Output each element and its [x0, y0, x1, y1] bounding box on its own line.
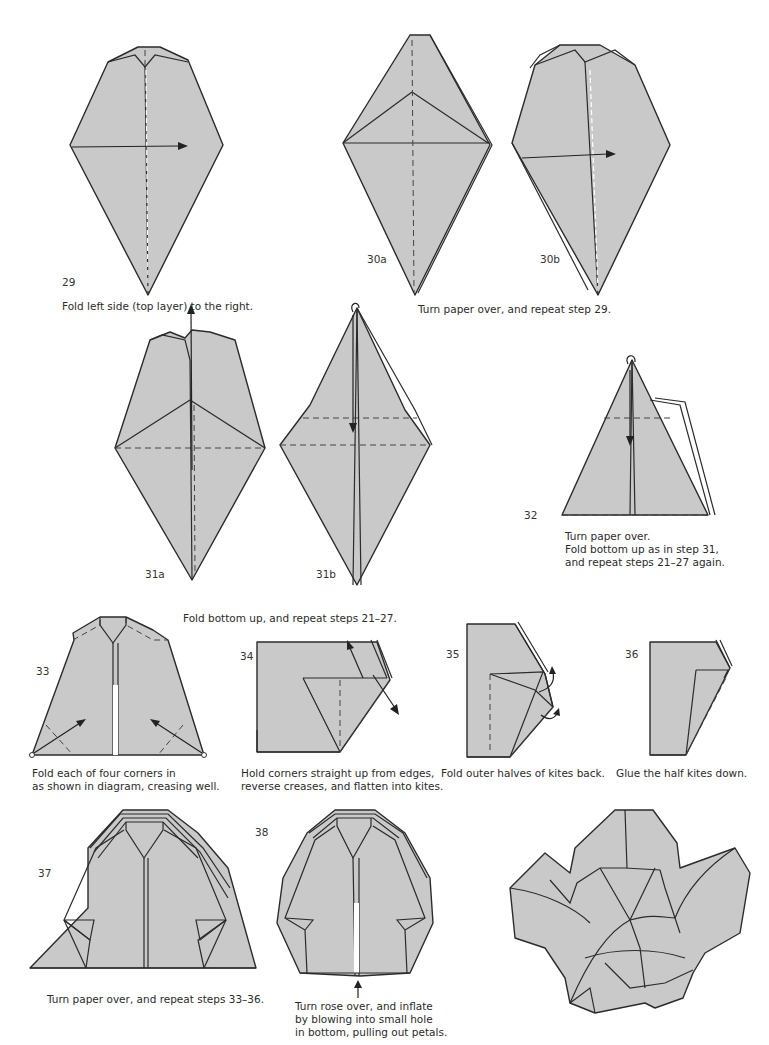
diagram-step-33: [28, 615, 208, 760]
diagram-step-32: [560, 350, 720, 520]
caption-step-29: Fold left side (top layer) to the right.: [62, 300, 253, 313]
step-number-29: 29: [62, 276, 75, 288]
origami-rose-icon: [505, 808, 755, 1018]
diagram-step-38: [275, 808, 435, 1003]
caption-step-32-line-3: and repeat steps 21–27 again.: [565, 556, 725, 569]
caption-step-30: Turn paper over, and repeat step 29.: [418, 303, 611, 316]
caption-step-35: Fold outer halves of kites back.: [441, 767, 605, 780]
step-label-31b: 31b: [316, 568, 336, 580]
caption-step-33-line-2: as shown in diagram, creasing well.: [32, 780, 220, 793]
step-label-30b: 30b: [540, 253, 560, 265]
step-number-33: 33: [36, 665, 49, 677]
caption-step-31: Fold bottom up, and repeat steps 21–27.: [183, 612, 397, 625]
caption-step-36: Glue the half kites down.: [616, 767, 747, 780]
step-label-30a: 30a: [367, 253, 387, 265]
diagram-step-31b: [275, 300, 435, 590]
step-number-38: 38: [255, 826, 268, 838]
caption-step-32-line-1: Turn paper over.: [565, 530, 650, 543]
diagram-step-36: [648, 640, 738, 760]
caption-step-34-line-2: reverse creases, and flatten into kites.: [241, 780, 443, 793]
diagram-step-35: [465, 622, 575, 762]
caption-step-33-line-1: Fold each of four corners in: [32, 767, 176, 780]
step-number-37: 37: [38, 867, 51, 879]
caption-step-32-line-2: Fold bottom up as in step 31,: [565, 543, 719, 556]
step-label-31a: 31a: [145, 568, 165, 580]
step-number-34: 34: [240, 650, 253, 662]
caption-step-37: Turn paper over, and repeat steps 33–36.: [47, 993, 264, 1006]
diagram-step-29: [60, 30, 230, 300]
step-number-35: 35: [446, 648, 459, 660]
caption-step-34-line-1: Hold corners straight up from edges,: [241, 767, 434, 780]
step-number-36: 36: [625, 648, 638, 660]
diagram-step-31a: [110, 320, 270, 590]
diagram-step-34: [255, 640, 415, 760]
caption-step-38-line-1: Turn rose over, and inflate: [295, 1000, 433, 1013]
diagram-step-37: [28, 808, 258, 973]
diagram-step-30a: [340, 30, 500, 300]
step-number-32: 32: [524, 509, 537, 521]
diagram-step-30b: [510, 30, 680, 300]
caption-step-38-line-3: in bottom, pulling out petals.: [295, 1026, 447, 1039]
caption-step-38-line-2: by blowing into small hole: [295, 1013, 433, 1026]
